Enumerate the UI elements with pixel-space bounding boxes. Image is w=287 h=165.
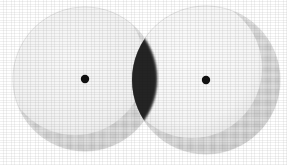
overlapping-circles-diagram bbox=[0, 0, 287, 165]
figure-canvas: Two overlapping circles with center poin… bbox=[0, 0, 287, 165]
left-center-dot bbox=[81, 75, 89, 83]
right-center-dot bbox=[202, 76, 210, 84]
